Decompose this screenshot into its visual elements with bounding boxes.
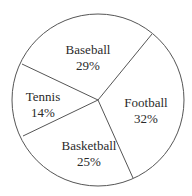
slice-label-tennis: Tennis xyxy=(26,89,60,104)
pie-chart: Baseball 29% Football 32% Basketball 25%… xyxy=(0,0,192,196)
slice-pct-basketball: 25% xyxy=(77,154,101,169)
slice-label-basketball: Basketball xyxy=(62,138,117,153)
slice-pct-football: 32% xyxy=(134,111,158,126)
slice-pct-tennis: 14% xyxy=(31,105,55,120)
slice-label-football: Football xyxy=(124,95,168,110)
slice-pct-baseball: 29% xyxy=(76,58,100,73)
slice-label-baseball: Baseball xyxy=(66,42,111,57)
